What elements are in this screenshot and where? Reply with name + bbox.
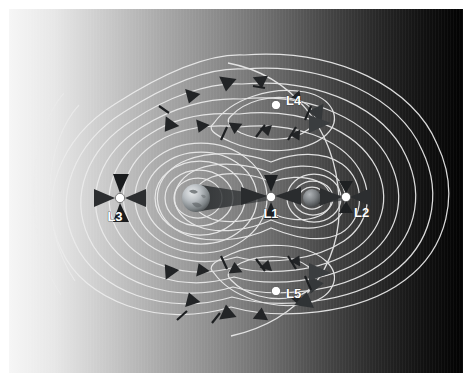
- primary-body: [182, 184, 210, 212]
- L3-dot[interactable]: [115, 193, 124, 202]
- L1-label: L1: [263, 206, 278, 221]
- L4-label: L4: [286, 93, 302, 108]
- L2-dot[interactable]: [341, 192, 350, 201]
- L1-dot[interactable]: [266, 192, 275, 201]
- L5-label: L5: [286, 286, 301, 301]
- L2-label: L2: [354, 205, 369, 220]
- L5-dot[interactable]: [271, 286, 280, 295]
- figure-root: L1 L2 L3: [0, 0, 472, 388]
- lagrange-diagram-svg: L1 L2 L3: [9, 9, 463, 373]
- L3-label: L3: [107, 209, 122, 224]
- lagrange-contour-plate: L1 L2 L3: [9, 9, 463, 373]
- L4-dot[interactable]: [271, 100, 280, 109]
- secondary-body: [303, 189, 321, 207]
